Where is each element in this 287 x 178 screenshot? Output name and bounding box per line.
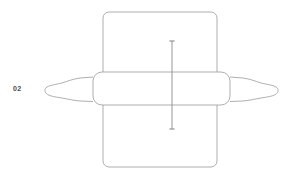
rolling-pin-handle-left-shape — [45, 77, 93, 102]
illustration-canvas: 02 — [0, 0, 287, 178]
rolling-pin-handle-right-shape — [230, 77, 278, 102]
rolling-pin-over-dough-diagram — [0, 0, 287, 178]
rolling-pin-barrel-shape — [93, 72, 230, 105]
